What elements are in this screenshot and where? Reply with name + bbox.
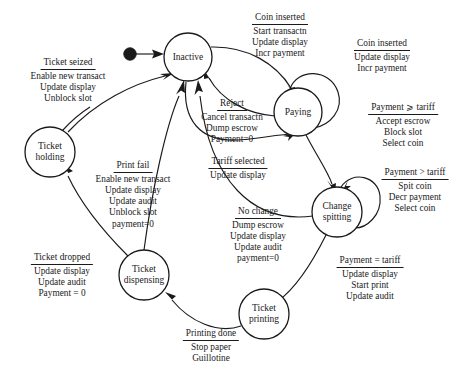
state-label-change-spitting-line2: spitting xyxy=(323,212,352,222)
transition-trigger: Print fail xyxy=(114,160,153,173)
transition-label-t-coin-inserted-self: Coin insertedUpdate displayIncr payment xyxy=(354,38,410,74)
state-label-ticket-holding-line1: Ticket xyxy=(38,141,62,151)
transition-trigger: No change xyxy=(235,206,281,219)
transition-action: Incr payment xyxy=(354,63,410,74)
transition-action: Dump escrow xyxy=(230,220,286,231)
state-node-ticket-holding[interactable]: Ticket holding xyxy=(25,127,75,177)
transition-action: Enable new transact xyxy=(31,71,106,82)
transition-trigger: Payment = tariff xyxy=(337,255,404,268)
state-label-ticket-printing-line1: Ticket xyxy=(252,303,276,313)
transition-action: Payment=0 xyxy=(201,134,263,145)
transition-label-t-tariff-selected: Tariff selectedUpdate display xyxy=(208,156,267,181)
transition-action: Update display xyxy=(96,185,171,196)
transition-action: Select coin xyxy=(368,138,438,149)
transition-label-t-reject: RejectCancel transactnDump escrowPayment… xyxy=(201,98,263,145)
transition-label-t-payment-gt-tariff: Payment > tariffSpit coinDecr paymentSel… xyxy=(382,167,449,214)
transition-trigger: Coin inserted xyxy=(354,38,410,51)
transition-action: Cancel transactn xyxy=(201,112,263,123)
state-node-inactive[interactable]: Inactive xyxy=(164,33,212,81)
transition-trigger: Ticket dropped xyxy=(31,252,93,265)
state-label-ticket-printing-line2: printing xyxy=(249,314,279,324)
edge-arrowhead xyxy=(176,80,185,95)
transition-action: payment=0 xyxy=(230,253,286,264)
transition-action: Update display xyxy=(31,82,106,93)
edge-initial-to-inactive xyxy=(124,48,164,60)
state-label-ticket-dispensing-line2: dispensing xyxy=(124,275,165,285)
transition-label-t-no-change: No changeDump escrowUpdate displayUpdate… xyxy=(230,206,286,265)
transition-action: Guillotine xyxy=(183,353,239,364)
edge-path xyxy=(62,107,90,131)
initial-state-dot xyxy=(124,48,136,60)
transition-actions: Spit coinDecr paymentSelect coin xyxy=(382,181,449,215)
transition-trigger: Payment > tariff xyxy=(382,167,449,180)
transition-action: Block slot xyxy=(368,127,438,138)
transition-actions: Enable new transactUpdate displayUnblock… xyxy=(31,71,106,105)
transition-trigger: Tariff selected xyxy=(208,156,267,169)
state-label-inactive: Inactive xyxy=(173,52,204,62)
transition-actions: Update displayIncr payment xyxy=(354,52,410,74)
transition-action: Spit coin xyxy=(382,181,449,192)
transition-action: Update display xyxy=(208,170,267,181)
transition-action: payment=0 xyxy=(96,219,171,230)
edge-paying-to-change xyxy=(306,135,336,193)
transition-action: Start transactn xyxy=(252,26,308,37)
edge-holding-upper-tail xyxy=(62,107,90,131)
transition-action: Update display xyxy=(337,269,404,280)
transition-actions: Dump escrowUpdate displayUpdate auditpay… xyxy=(230,220,286,265)
transition-label-t-ticket-dropped: Ticket droppedUpdate displayUpdate audit… xyxy=(31,252,93,299)
transition-action: Dump escrow xyxy=(201,123,263,134)
transition-label-t-payment-eq-tariff: Payment = tariffUpdate displayStart prin… xyxy=(337,255,404,302)
edge-arrowhead xyxy=(195,80,204,95)
transition-action: Accept escrow xyxy=(368,116,438,127)
transition-actions: Update displayStart printUpdate audit xyxy=(337,269,404,303)
transition-action: Update display xyxy=(31,266,93,277)
state-diagram-canvas: Inactive Paying Change spitting Ticket p… xyxy=(0,0,474,380)
transition-action: Unblock slot xyxy=(96,207,171,218)
transition-action: Incr payment xyxy=(252,48,308,59)
transition-label-t-print-fail: Print failEnable new transactUpdate disp… xyxy=(96,160,171,230)
transition-trigger: Payment ⩾ tariff xyxy=(368,102,438,115)
edge-printing-to-dispensing xyxy=(165,292,241,328)
transition-action: Decr payment xyxy=(382,192,449,203)
state-label-change-spitting-line1: Change xyxy=(322,201,351,211)
transition-trigger: Ticket seized xyxy=(41,57,96,70)
transition-actions: Update displayUpdate auditPayment = 0 xyxy=(31,266,93,300)
edge-path xyxy=(172,300,241,328)
transition-action: Update audit xyxy=(31,277,93,288)
transition-label-t-ticket-seized: Ticket seizedEnable new transactUpdate d… xyxy=(31,57,106,104)
transition-actions: Cancel transactnDump escrowPayment=0 xyxy=(201,112,263,146)
state-label-ticket-dispensing-line1: Ticket xyxy=(132,264,156,274)
transition-action: Stop paper xyxy=(183,342,239,353)
transition-actions: Accept escrowBlock slotSelect coin xyxy=(368,116,438,150)
transition-actions: Enable new transactUpdate displayUpdate … xyxy=(96,174,171,230)
transition-trigger: Coin inserted xyxy=(252,12,308,25)
transition-action: Update audit xyxy=(96,196,171,207)
state-label-ticket-holding-line2: holding xyxy=(35,152,64,162)
transition-action: Update display xyxy=(230,231,286,242)
state-label-paying: Paying xyxy=(285,107,312,117)
transition-actions: Stop paperGuillotine xyxy=(183,342,239,364)
transition-trigger: Printing done xyxy=(183,328,239,341)
state-node-ticket-dispensing[interactable]: Ticket dispensing xyxy=(119,250,169,300)
transition-action: Update display xyxy=(354,52,410,63)
edge-path xyxy=(306,135,332,184)
transition-action: Select coin xyxy=(382,203,449,214)
transition-label-t-printing-done: Printing doneStop paperGuillotine xyxy=(183,328,239,364)
state-node-change-spitting[interactable]: Change spitting xyxy=(312,187,362,237)
transition-actions: Start transactnUpdate displayIncr paymen… xyxy=(252,26,308,60)
transition-action: Start print xyxy=(337,280,404,291)
transition-label-t-coin-inserted-start: Coin insertedStart transactnUpdate displ… xyxy=(252,12,308,59)
transition-label-t-payment-ge-tariff: Payment ⩾ tariffAccept escrowBlock slotS… xyxy=(368,102,438,149)
transition-action: Update audit xyxy=(230,242,286,253)
transition-action: Update audit xyxy=(337,291,404,302)
transition-actions: Update display xyxy=(208,170,267,181)
transition-action: Unblock slot xyxy=(31,93,106,104)
transition-action: Update display xyxy=(252,37,308,48)
transition-action: Enable new transact xyxy=(96,174,171,185)
state-node-paying[interactable]: Paying xyxy=(274,88,322,136)
transition-action: Payment = 0 xyxy=(31,288,93,299)
transition-trigger: Reject xyxy=(217,98,247,111)
state-node-ticket-printing[interactable]: Ticket printing xyxy=(239,289,289,339)
